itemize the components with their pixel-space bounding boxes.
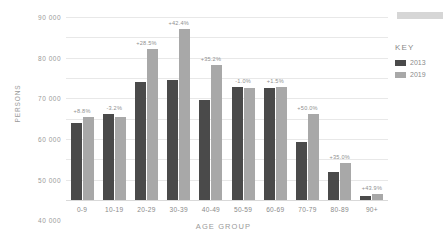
x-axis-tick-label: 70-79 — [298, 206, 316, 213]
bar-value-label: -1.0% — [235, 78, 251, 84]
bar-group: +35.0%80-89 — [324, 17, 356, 200]
y-axis-title: PERSONS — [14, 64, 21, 144]
x-axis-title: AGE GROUP — [0, 222, 447, 231]
x-axis-tick-label: 90+ — [366, 206, 378, 213]
bar-group: +8.8%0-9 — [66, 17, 98, 200]
bar-group: +35.2%40-49 — [195, 17, 227, 200]
x-axis-tick-label: 20-29 — [137, 206, 155, 213]
legend-item-2013[interactable]: 2013 — [395, 59, 447, 66]
bar-2013-70-79 — [296, 142, 307, 200]
y-axis-tick-label: 70 000 — [38, 95, 61, 102]
x-axis-tick-label: 40-49 — [202, 206, 220, 213]
legend-title: KEY — [395, 43, 447, 52]
y-axis-tick-label: 50 000 — [38, 176, 61, 183]
gridline: 0 — [66, 200, 388, 201]
bar-group: -3.2%10-19 — [98, 17, 130, 200]
bar-2019-90+ — [372, 194, 383, 200]
y-axis-tick-label: 60 000 — [38, 136, 61, 143]
bar-group: +28.5%20-29 — [130, 17, 162, 200]
bar-groups: +8.8%0-9-3.2%10-19+28.5%20-29+42.4%30-39… — [66, 17, 388, 200]
bar-value-label: +28.5% — [136, 40, 156, 46]
bar-value-label: +35.0% — [330, 154, 350, 160]
x-axis-tick-label: 60-69 — [266, 206, 284, 213]
bar-group: +50.0%70-79 — [291, 17, 323, 200]
y-axis-tick-label: 90 000 — [38, 14, 61, 21]
bar-2019-10-19 — [115, 117, 126, 200]
bar-2013-80-89 — [328, 172, 339, 200]
bar-2013-20-29 — [135, 82, 146, 200]
plot-area: 90 00080 00070 00060 00050 00040 00030 0… — [66, 17, 388, 200]
bar-2019-0-9 — [83, 117, 94, 200]
bar-value-label: +8.8% — [74, 108, 91, 114]
legend-swatch-icon — [395, 72, 406, 78]
bar-value-label: +50.0% — [297, 105, 317, 111]
x-axis-tick-label: 80-89 — [331, 206, 349, 213]
x-axis-tick-label: 50-59 — [234, 206, 252, 213]
x-axis-tick-label: 0-9 — [77, 206, 87, 213]
y-axis-tick-label: 80 000 — [38, 54, 61, 61]
bar-group: -1.0%50-59 — [227, 17, 259, 200]
legend-label: 2019 — [410, 71, 426, 78]
bar-2013-30-39 — [167, 80, 178, 200]
bar-value-label: +42.4% — [169, 20, 189, 26]
bar-2019-80-89 — [340, 163, 351, 200]
bar-2019-20-29 — [147, 49, 158, 200]
bar-value-label: +1.5% — [267, 78, 284, 84]
bar-value-label: +35.2% — [201, 56, 221, 62]
bar-2013-40-49 — [199, 100, 210, 200]
bar-2019-60-69 — [276, 87, 287, 200]
bar-2019-40-49 — [211, 65, 222, 200]
bar-value-label: -3.2% — [106, 105, 122, 111]
bar-chart: PERSONS 90 00080 00070 00060 00050 00040… — [0, 0, 447, 241]
bar-value-label: +43.9% — [362, 185, 382, 191]
bar-2019-50-59 — [244, 88, 255, 200]
bar-group: +42.4%30-39 — [163, 17, 195, 200]
legend-label: 2013 — [410, 59, 426, 66]
bar-group: +1.5%60-69 — [259, 17, 291, 200]
bar-2013-90+ — [360, 196, 371, 200]
x-axis-tick-label: 30-39 — [170, 206, 188, 213]
legend-item-2019[interactable]: 2019 — [395, 71, 447, 78]
bar-2013-60-69 — [264, 88, 275, 200]
bar-2019-70-79 — [308, 114, 319, 200]
bar-2013-50-59 — [232, 87, 243, 200]
legend: KEY 20132019 — [395, 43, 447, 83]
header-swatch — [397, 12, 443, 19]
legend-swatch-icon — [395, 60, 406, 66]
bar-2013-10-19 — [103, 114, 114, 200]
x-axis-tick-label: 10-19 — [105, 206, 123, 213]
bar-2013-0-9 — [71, 123, 82, 200]
bar-2019-30-39 — [179, 29, 190, 200]
bar-group: +43.9%90+ — [356, 17, 388, 200]
